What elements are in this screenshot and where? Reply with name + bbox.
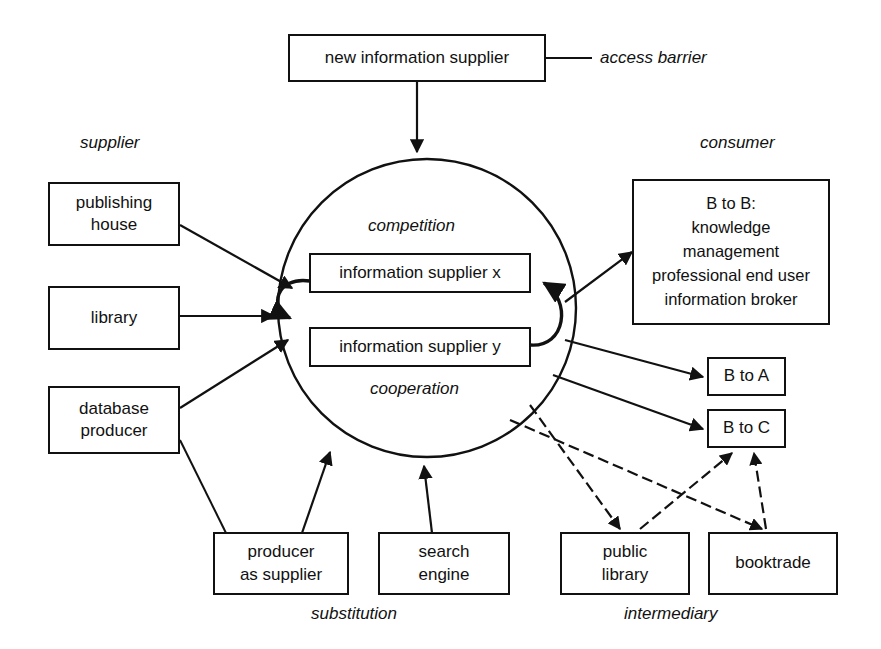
arrow-market-to-b2a <box>565 340 703 377</box>
arrow-database-producer-to-market <box>180 340 288 408</box>
arrow-producer-as-supplier-to-market <box>302 452 330 533</box>
line-database-producer-to-producer-as-supplier <box>180 440 226 533</box>
node-new-information-supplier[interactable]: new information supplier <box>288 34 546 82</box>
arrow-search-engine-to-market <box>424 466 432 533</box>
label-consumer: consumer <box>700 133 775 153</box>
node-information-supplier-x[interactable]: information supplier x <box>309 253 531 293</box>
label-cooperation: cooperation <box>370 379 459 399</box>
diagram-canvas: new information supplier publishing hous… <box>0 0 881 649</box>
node-b-to-a[interactable]: B to A <box>707 357 786 396</box>
arrow-booktrade-to-b2c <box>754 453 766 529</box>
node-public-library[interactable]: public library <box>560 532 690 595</box>
node-information-supplier-y[interactable]: information supplier y <box>309 327 531 367</box>
node-library[interactable]: library <box>48 286 180 350</box>
node-database-producer[interactable]: database producer <box>48 386 180 454</box>
arrow-market-to-b2c <box>553 375 703 429</box>
arrow-public-library-to-b2c <box>640 453 732 529</box>
node-publishing-house[interactable]: publishing house <box>48 182 180 246</box>
arrow-publishing-house-to-market <box>180 225 292 288</box>
market-circle <box>278 159 576 457</box>
node-producer-as-supplier[interactable]: producer as supplier <box>213 532 349 595</box>
label-access-barrier: access barrier <box>600 48 707 68</box>
label-competition: competition <box>368 216 455 236</box>
node-b-to-b[interactable]: B to B: knowledge management professiona… <box>632 179 830 325</box>
arrow-market-to-public-library <box>530 405 620 529</box>
label-intermediary: intermediary <box>624 604 718 624</box>
node-booktrade[interactable]: booktrade <box>708 532 838 595</box>
arrow-market-to-b2b <box>565 252 632 302</box>
label-supplier: supplier <box>80 133 140 153</box>
node-b-to-c[interactable]: B to C <box>707 409 786 448</box>
label-substitution: substitution <box>311 604 397 624</box>
node-search-engine[interactable]: search engine <box>378 532 510 595</box>
